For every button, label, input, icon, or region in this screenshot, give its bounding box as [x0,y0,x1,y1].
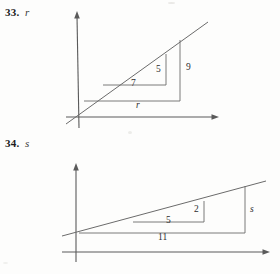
y-axis [73,163,79,262]
x-axis [62,249,270,255]
scan-speck [3,262,8,264]
problem-34-label-base-inner: 5 [166,216,171,226]
problem-34-label-base-outer: 11 [158,233,167,243]
scan-speck [168,2,175,4]
textbook-page: 33. r 7 5 9 r 34. s [0,0,280,274]
scan-speck [128,131,132,134]
problem-34-label-height-inner: 2 [194,205,199,215]
problem-34-figure [0,0,280,274]
problem-34-label-height-outer: s [250,205,254,215]
transversal-line [62,181,266,236]
